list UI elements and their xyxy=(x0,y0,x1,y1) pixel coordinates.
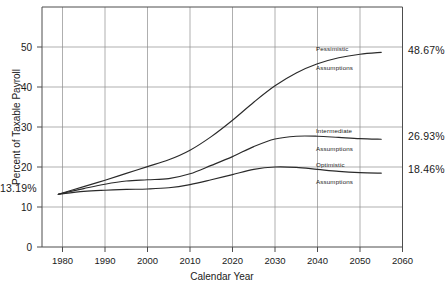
x-tick-label-1990: 1990 xyxy=(85,256,125,266)
x-tick-label-2060: 2060 xyxy=(383,256,423,266)
start-value-label: 13.19% xyxy=(0,183,37,194)
series-line-pessimistic xyxy=(58,52,381,194)
endpoint-label-intermediate: 26.93% xyxy=(408,131,445,142)
data-series-group xyxy=(58,52,381,194)
x-tick-label-2040: 2040 xyxy=(298,256,338,266)
series-label-optimistic-line2: Assumptions xyxy=(316,179,353,185)
x-tick-label-1980: 1980 xyxy=(43,256,83,266)
series-label-pessimistic-line1: Pessimistic xyxy=(316,46,349,52)
x-tick-label-2010: 2010 xyxy=(170,256,210,266)
chart-figure: 0 10 20 30 40 50 1980 1990 2000 2010 202… xyxy=(0,0,447,285)
y-tick-marks xyxy=(37,47,42,247)
x-tick-label-2000: 2000 xyxy=(128,256,168,266)
y-tick-label-0: 0 xyxy=(6,243,32,253)
x-tick-label-2050: 2050 xyxy=(340,256,380,266)
series-label-optimistic-line1: Optimistic xyxy=(316,162,345,168)
series-label-intermediate-line2: Assumptions xyxy=(316,146,353,152)
x-tick-marks xyxy=(63,247,403,252)
series-label-intermediate-line1: Intermediate xyxy=(316,128,352,134)
x-tick-label-2030: 2030 xyxy=(255,256,295,266)
x-axis-title: Calendar Year xyxy=(152,272,292,282)
x-tick-label-2020: 2020 xyxy=(213,256,253,266)
endpoint-label-pessimistic: 48.67% xyxy=(408,45,445,56)
series-label-pessimistic-line2: Assumptions xyxy=(316,65,353,71)
chart-canvas xyxy=(0,0,447,285)
endpoint-label-optimistic: 18.46% xyxy=(408,164,445,175)
